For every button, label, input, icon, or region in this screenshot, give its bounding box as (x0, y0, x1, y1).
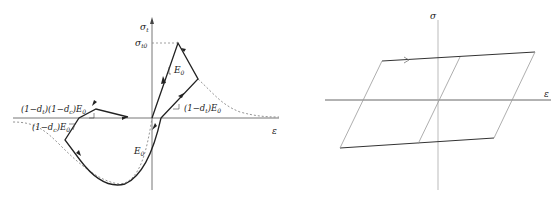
right-x-axis-label: ε (544, 89, 549, 99)
tension-modulus-label: E0 (173, 65, 185, 76)
peak-stress-label: σt0 (135, 38, 148, 49)
right-diagram: σ ε (325, 11, 551, 190)
arrow-icon (152, 123, 157, 130)
figure-canvas: σt σt0 E0 (1−dt)E0 (1−dt)(1−dc)E0 (1−dc)… (0, 0, 559, 197)
x-axis-label: ε (272, 126, 277, 136)
loop-bottom-edge (340, 138, 494, 148)
loop-right-edge (494, 52, 535, 138)
left-diagram: σt σt0 E0 (1−dt)E0 (1−dt)(1−dc)E0 (1−dc)… (13, 17, 279, 190)
combined-damage-modulus-label: (1−dt)(1−dc)E0 (21, 104, 86, 115)
right-y-axis-label: σ (430, 11, 437, 21)
arrow-icon (92, 100, 97, 106)
compression-path (65, 109, 161, 185)
y-axis-label: σt (140, 22, 149, 33)
y-axis-arrow-icon (150, 17, 154, 24)
loop-left-edge (340, 61, 382, 148)
compression-modulus-label: E0 (133, 146, 145, 157)
loop-middle-edge (418, 57, 460, 144)
tension-damaged-modulus-label: (1−dt)E0 (184, 103, 221, 114)
compression-damaged-modulus-label: (1−dc)E0 (32, 122, 70, 133)
slope-marker-combined (89, 113, 94, 118)
arrow-icon (122, 117, 128, 120)
